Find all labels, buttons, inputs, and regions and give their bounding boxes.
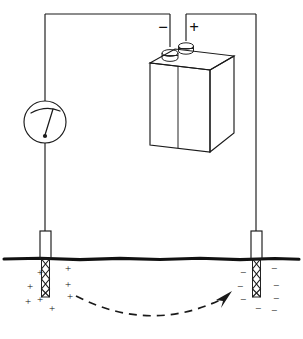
circuit-diagram: − + + + + [0,0,303,339]
charge-plus: + [27,280,33,292]
meter-scale-arc [31,108,60,113]
current-arc-path [76,296,222,316]
charge-minus: − [273,279,279,291]
charge-minus: − [271,304,277,316]
charge-minus: − [237,280,243,292]
charge-minus: − [271,262,277,274]
charge-minus: − [240,293,246,305]
right-electrode-hatching [253,259,261,297]
battery-right-face [210,56,234,152]
meter[interactable] [24,101,66,143]
charge-minus: − [240,266,246,278]
right-electrode-shaft [251,231,262,259]
diagram-canvas: − + + + + [0,0,303,339]
charge-plus: + [25,295,31,307]
left-electrode-shaft [40,231,51,259]
current-flow-arrow [76,291,232,316]
positive-terminal-label: + [189,18,199,37]
left-electrode-hatching [42,259,50,297]
battery-positive-terminal [179,43,194,54]
charge-minus: − [255,302,261,314]
left-electrode[interactable] [40,231,51,297]
meter-pivot-dot [43,134,47,138]
charge-plus: + [65,262,71,274]
right-electrode[interactable] [251,231,262,297]
charge-plus: + [67,290,73,302]
battery[interactable]: − + [150,18,234,152]
right-charge-cloud: − − − − − − − − [237,262,279,316]
meter-needle [45,109,53,135]
charge-minus: − [273,292,279,304]
charge-plus: + [65,278,71,290]
charge-plus: + [37,266,43,278]
charge-plus: + [49,302,55,314]
current-arrowhead [216,291,232,308]
negative-terminal-label: − [158,18,168,37]
charge-plus: + [37,293,43,305]
battery-front-face [150,63,210,152]
